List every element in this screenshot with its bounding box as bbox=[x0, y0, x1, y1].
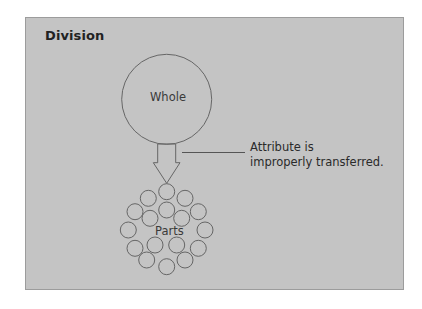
part-circle bbox=[127, 240, 143, 256]
annotation-line-1: Attribute is bbox=[250, 140, 384, 155]
part-circle bbox=[190, 240, 206, 256]
part-circle bbox=[159, 259, 175, 275]
part-circle bbox=[190, 204, 206, 220]
part-circle bbox=[120, 222, 136, 238]
part-circle bbox=[159, 184, 175, 200]
part-circle bbox=[127, 204, 143, 220]
down-arrow-icon bbox=[153, 144, 180, 183]
part-circle bbox=[169, 237, 185, 253]
parts-label: Parts bbox=[155, 224, 184, 238]
part-circle bbox=[139, 252, 155, 268]
part-circle bbox=[159, 202, 175, 218]
part-circle bbox=[177, 190, 193, 206]
part-circle bbox=[147, 237, 163, 253]
part-circle bbox=[197, 222, 213, 238]
part-circle bbox=[140, 190, 156, 206]
part-circle bbox=[177, 252, 193, 268]
annotation-text: Attribute is improperly transferred. bbox=[250, 140, 384, 170]
whole-label: Whole bbox=[150, 90, 186, 104]
annotation-line-2: improperly transferred. bbox=[250, 155, 384, 170]
